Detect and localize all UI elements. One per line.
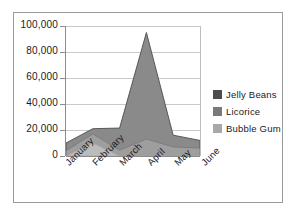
- legend-label: Licorice: [226, 106, 260, 117]
- legend-swatch-icon: [213, 90, 222, 99]
- y-tick-label-20000: 20,000: [26, 123, 58, 134]
- chart-legend: Jelly BeansLicoriceBubble Gum: [213, 87, 281, 138]
- y-tick-label-40000: 40,000: [26, 97, 58, 108]
- legend-item-jelly-beans[interactable]: Jelly Beans: [213, 87, 281, 102]
- legend-label: Jelly Beans: [226, 89, 277, 100]
- y-tick-label-100000: 100,000: [20, 19, 58, 30]
- legend-swatch-icon: [213, 107, 222, 116]
- x-tick-label-june: June: [199, 145, 222, 168]
- legend-item-licorice[interactable]: Licorice: [213, 104, 281, 119]
- y-tick-label-80000: 80,000: [26, 45, 58, 56]
- y-tick-label-0: 0: [52, 149, 58, 160]
- legend-label: Bubble Gum: [226, 123, 281, 134]
- y-tick-label-60000: 60,000: [26, 71, 58, 82]
- chart-frame: 020,00040,00060,00080,000100,000 January…: [13, 12, 283, 203]
- legend-item-bubble-gum[interactable]: Bubble Gum: [213, 121, 281, 136]
- legend-swatch-icon: [213, 124, 222, 133]
